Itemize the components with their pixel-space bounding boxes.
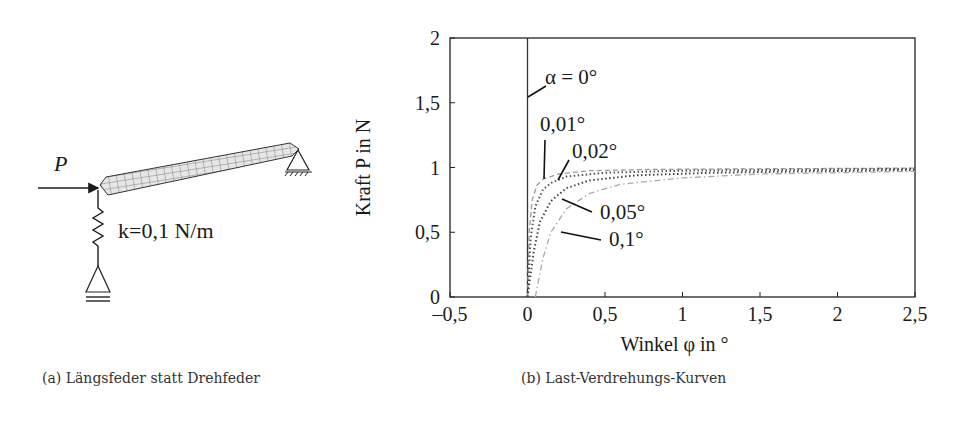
x-tick-label: 2,5 — [903, 303, 928, 325]
x-axis-label: Winkel φ in ° — [620, 333, 728, 356]
load-rotation-chart: –0,500,511,522,500,511,52Winkel φ in °Kr… — [340, 0, 968, 360]
y-tick-label: 1,5 — [415, 92, 440, 114]
x-tick-label: 0 — [523, 303, 533, 325]
annotation-label: 0,05° — [600, 200, 645, 224]
annotation-label: 0,02° — [572, 139, 617, 163]
series-line — [528, 170, 916, 297]
y-tick-label: 0,5 — [415, 221, 440, 243]
series-line — [535, 171, 915, 297]
annotation-leader — [544, 140, 545, 179]
annotation-leader — [558, 160, 569, 180]
annotation-label: α = 0° — [545, 65, 597, 89]
x-tick-label: 0,5 — [593, 303, 618, 325]
roller-support-icon — [86, 266, 110, 301]
x-tick-label: 1,5 — [748, 303, 773, 325]
y-axis-label: Kraft P in N — [352, 119, 374, 217]
spring-constant-label: k=0,1 N/m — [118, 218, 214, 243]
series-line — [528, 169, 916, 297]
series-line — [528, 168, 916, 297]
caption-b: (b) Last-Verdrehungs-Kurven — [521, 370, 726, 386]
annotation-label: 0,01° — [540, 112, 585, 136]
plot-frame — [450, 38, 915, 297]
y-tick-label: 1 — [430, 157, 440, 179]
y-tick-label: 2 — [430, 27, 440, 49]
figure-b: –0,500,511,522,500,511,52Winkel φ in °Kr… — [340, 0, 968, 423]
annotation-leader — [561, 232, 601, 240]
x-tick-label: 1 — [678, 303, 688, 325]
annotation-label: 0,1° — [609, 227, 644, 251]
annotation-leader — [562, 199, 592, 212]
force-label: P — [53, 151, 67, 176]
caption-a: (a) Längsfeder statt Drehfeder — [42, 370, 260, 386]
y-tick-label: 0 — [430, 286, 440, 308]
annotation-leader — [528, 86, 546, 97]
spring-icon — [93, 190, 103, 266]
meshed-beam — [100, 143, 299, 195]
x-tick-label: 2 — [833, 303, 843, 325]
